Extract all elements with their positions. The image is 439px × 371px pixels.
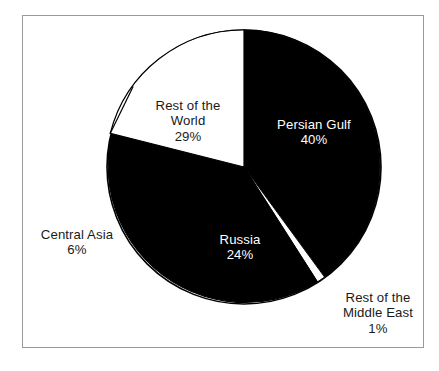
pie-label-central-asia-name: Central Asia	[18, 227, 136, 242]
pie-label-russia: Russia 24%	[191, 232, 289, 263]
pie-label-russia-value: 24%	[191, 247, 289, 262]
figure-caption	[24, 360, 414, 371]
pie-label-rest-of-world-line1: Rest of the	[130, 98, 246, 113]
pie-label-rest-of-world: Rest of the World 29%	[130, 98, 246, 144]
pie-label-persian-gulf: Persian Gulf 40%	[252, 117, 376, 148]
pie-label-rest-of-middle-east-line2: Middle East	[322, 305, 434, 320]
pie-label-central-asia: Central Asia 6%	[18, 227, 136, 258]
pie-label-persian-gulf-name: Persian Gulf	[252, 117, 376, 132]
pie-label-rest-of-world-line2: World	[130, 113, 246, 128]
pie-label-rest-of-world-value: 29%	[130, 129, 246, 144]
figure-root: Persian Gulf 40% Rest of the World 29% R…	[0, 0, 439, 371]
pie-label-central-asia-value: 6%	[18, 242, 136, 257]
pie-label-russia-name: Russia	[191, 232, 289, 247]
pie-label-persian-gulf-value: 40%	[252, 132, 376, 147]
pie-label-rest-of-middle-east-line1: Rest of the	[322, 290, 434, 305]
pie-label-rest-of-middle-east: Rest of the Middle East 1%	[322, 290, 434, 336]
pie-label-rest-of-middle-east-value: 1%	[322, 321, 434, 336]
